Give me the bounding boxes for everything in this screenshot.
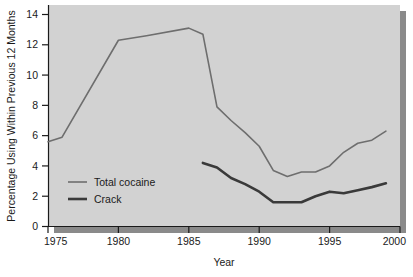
y-axis-title: Percentage Using Within Previous 12 Mont… [5,10,17,221]
y-tick-label-14: 14 [26,8,38,20]
y-tick-label-6: 6 [32,129,38,141]
x-tick-label-1980: 1980 [107,235,131,247]
x-tick-label-1975: 1975 [44,235,68,247]
x-tick-label-1995: 1995 [318,235,342,247]
line-chart: 14121086420 197519801985199019952000 Tot… [0,0,413,277]
y-axis-tick-labels: 14121086420 [26,8,38,232]
chart-figure: 14121086420 197519801985199019952000 Tot… [0,0,413,277]
y-tick-label-10: 10 [26,69,38,81]
y-tick-label-2: 2 [32,190,38,202]
x-tick-label-1990: 1990 [248,235,272,247]
y-tick-label-0: 0 [32,220,38,232]
y-tick-label-12: 12 [26,38,38,50]
y-tick-label-8: 8 [32,99,38,111]
x-axis-tick-labels: 197519801985199019952000 [44,235,406,247]
x-axis-title: Year [213,256,235,268]
x-tick-label-1985: 1985 [177,235,201,247]
x-tick-label-2000: 2000 [383,235,407,247]
legend-label-total-cocaine: Total cocaine [94,176,155,188]
legend-label-crack: Crack [94,193,122,205]
y-tick-label-4: 4 [32,160,38,172]
y-axis-ticks [42,15,48,227]
